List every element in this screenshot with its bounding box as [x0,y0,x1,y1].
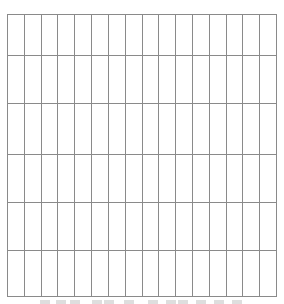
grid-cell [108,104,125,155]
grid-cell [159,104,176,155]
grid-cell [24,155,41,203]
grid-cell [125,155,142,203]
grid-cell [41,155,58,203]
grid-cell [176,104,193,155]
grid-cell [192,203,209,251]
grid-cell [92,15,109,56]
grid-cell [142,15,159,56]
grid-cell [260,104,277,155]
grid-cell [226,104,243,155]
clipped-glyph [70,300,80,304]
grid-cell [8,203,25,251]
grid-cell [125,251,142,297]
grid-cell [58,251,75,297]
grid-cell [176,56,193,104]
grid-cell [75,251,92,297]
grid-cell [243,203,260,251]
grid-cell [58,155,75,203]
grid-cell [243,155,260,203]
grid-cell [125,104,142,155]
clipped-glyph [56,300,66,304]
grid-cell [176,251,193,297]
grid-cell [243,251,260,297]
grid-cell [41,56,58,104]
grid-cell [92,251,109,297]
clipped-glyph [124,300,134,304]
clipped-glyph [104,300,114,304]
grid-cell [24,203,41,251]
grid-row [8,251,277,297]
grid-cell [125,15,142,56]
grid-cell [24,56,41,104]
grid-cell [209,251,226,297]
grid-cell [41,15,58,56]
grid-cell [243,15,260,56]
grid-cell [159,203,176,251]
grid-cell [159,56,176,104]
grid-cell [92,203,109,251]
grid-cell [58,203,75,251]
grid-cell [75,56,92,104]
clipped-caption [0,300,284,304]
grid-cell [8,15,25,56]
grid-cell [8,155,25,203]
grid-cell [209,56,226,104]
grid-cell [41,251,58,297]
clipped-glyph [196,300,206,304]
grid-cell [108,155,125,203]
grid-cell [8,104,25,155]
grid-cell [142,56,159,104]
grid-cell [159,15,176,56]
grid-cell [8,251,25,297]
grid-cell [192,251,209,297]
grid-cell [108,56,125,104]
grid-cell [209,203,226,251]
grid-cell [176,203,193,251]
empty-grid-table [7,14,277,297]
grid-cell [192,15,209,56]
grid-cell [92,104,109,155]
grid-cell [75,15,92,56]
grid-cell [260,203,277,251]
grid-cell [108,251,125,297]
grid-cell [226,155,243,203]
grid-cell [75,104,92,155]
grid-cell [108,203,125,251]
grid-cell [192,104,209,155]
clipped-glyph [92,300,102,304]
grid-cell [142,251,159,297]
grid-cell [125,203,142,251]
grid-cell [142,203,159,251]
grid-cell [142,104,159,155]
grid-cell [226,203,243,251]
grid-cell [159,251,176,297]
grid-cell [159,155,176,203]
grid-cell [142,155,159,203]
grid-row [8,104,277,155]
grid-cell [192,155,209,203]
grid-cell [92,56,109,104]
grid-cell [260,251,277,297]
grid-cell [108,15,125,56]
grid-cell [24,104,41,155]
clipped-glyph [178,300,188,304]
grid-cell [209,155,226,203]
grid-cell [8,56,25,104]
grid-cell [226,56,243,104]
grid-cell [58,104,75,155]
grid-cell [243,56,260,104]
grid-cell [58,56,75,104]
grid-body [8,15,277,297]
grid-cell [176,155,193,203]
clipped-glyph [40,300,50,304]
grid-cell [58,15,75,56]
grid-cell [260,155,277,203]
grid-cell [75,155,92,203]
clipped-glyph [232,300,242,304]
grid-cell [125,56,142,104]
grid-row [8,56,277,104]
grid-cell [260,15,277,56]
clipped-glyph [148,300,158,304]
grid-cell [92,155,109,203]
grid-cell [209,104,226,155]
